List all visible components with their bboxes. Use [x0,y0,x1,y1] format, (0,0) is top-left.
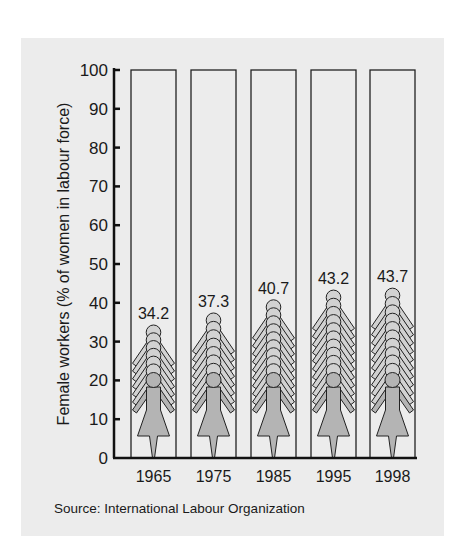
y-tick-label: 90 [89,100,108,119]
y-tick-label: 70 [89,177,108,196]
bar-1965: 34.21965 [131,70,176,485]
pictogram-bar-chart: Female workers (% of women in labour for… [0,0,463,560]
y-tick-label: 100 [80,61,108,80]
x-tick-label: 1965 [136,468,172,485]
y-tick-label: 0 [99,449,108,468]
x-tick-label: 1975 [196,468,232,485]
y-tick-label: 60 [89,216,108,235]
x-tick-label: 1995 [316,468,352,485]
x-tick-label: 1985 [256,468,292,485]
value-label: 34.2 [138,305,169,322]
value-label: 43.2 [318,270,349,287]
y-tick-label: 30 [89,333,108,352]
value-label: 37.3 [198,293,229,310]
y-tick-label: 80 [89,139,108,158]
value-label: 40.7 [258,280,289,297]
y-tick-label: 20 [89,371,108,390]
y-tick-label: 10 [89,410,108,429]
bar-1995: 43.21995 [311,70,356,485]
bar-1998: 43.71998 [370,70,415,485]
y-tick-label: 40 [89,294,108,313]
bar-1975: 37.31975 [191,70,236,485]
source-note: Source: International Labour Organizatio… [54,501,305,516]
bar-1985: 40.71985 [251,70,296,485]
y-axis-title: Female workers (% of women in labour for… [55,103,72,426]
value-label: 43.7 [377,268,408,285]
x-tick-label: 1998 [375,468,411,485]
y-tick-label: 50 [89,255,108,274]
